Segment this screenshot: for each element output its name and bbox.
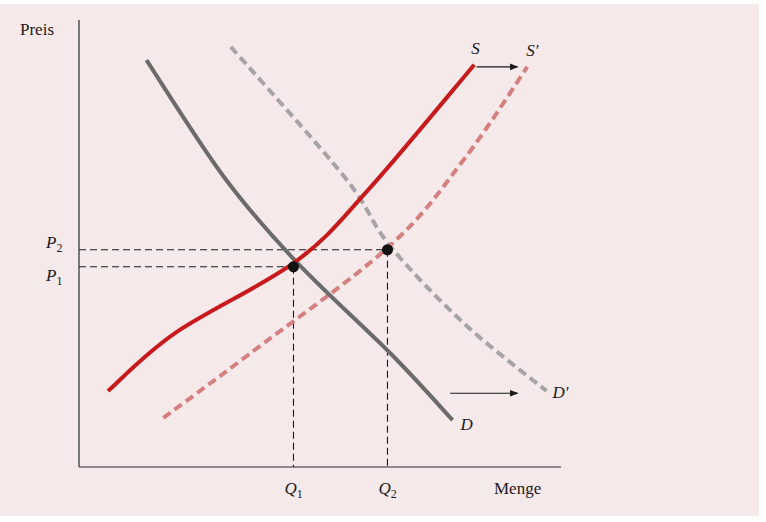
supply-curve-s-shifted [163, 67, 527, 418]
curve-label-d-shifted: D' [552, 383, 569, 402]
supply-demand-chart: Preis Menge Q1P1Q2P2D'S'DS [0, 0, 766, 522]
p1-label: P1 [45, 266, 62, 288]
q1-label: Q1 [284, 479, 302, 501]
equilibrium-point-2 [382, 244, 393, 255]
demand-curve-d [146, 60, 452, 420]
curve-label-d: D [460, 415, 474, 434]
demand-curve-d-shifted [231, 47, 547, 391]
x-axis-label: Menge [494, 479, 541, 498]
equilibrium-point-1 [288, 261, 299, 272]
q2-label: Q2 [378, 479, 396, 501]
curve-label-s: S [471, 39, 480, 58]
curve-label-s-shifted: S' [526, 41, 539, 60]
p2-label: P2 [45, 233, 62, 255]
y-axis-label: Preis [20, 20, 54, 39]
